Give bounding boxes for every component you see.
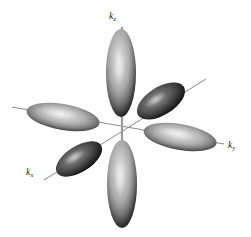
axis-label-ky-base: k [228,140,232,150]
axis-label-kx: kx [26,168,33,178]
axis-label-ky-subscript: y [233,144,236,151]
axis-label-kz: kz [109,12,116,22]
orbital-figure: kz ky kx [0,0,251,237]
lobe-ky-negative [24,98,101,136]
lobe-kx-positive [50,134,108,184]
axis-label-ky: ky [228,141,235,151]
axis-label-kz-base: k [109,11,113,21]
lobe-ky-positive [141,118,218,156]
lobe-kx-negative [131,75,192,127]
orbital-diagram-canvas [0,0,251,237]
axis-label-kx-base: k [26,167,30,177]
lobe-kz-positive [106,29,136,117]
axis-label-kz-subscript: z [114,15,117,22]
lobe-kz-negative [107,140,137,228]
axis-label-kx-subscript: x [31,171,34,178]
